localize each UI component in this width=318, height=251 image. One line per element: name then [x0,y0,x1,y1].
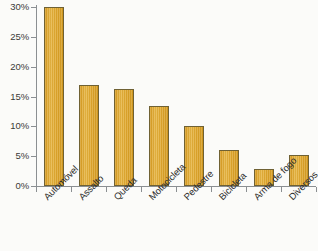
y-axis-line [36,5,37,187]
y-axis-tick-label: 0% [0,181,29,191]
y-axis-tick-label-text: 15% [0,92,29,102]
bar-chart: 0%5%10%15%20%25%30% AutomóvelAssaltoQued… [0,0,318,251]
y-axis-tick-label: 30% [0,2,29,12]
y-axis-tick-label-text: 30% [0,2,29,12]
y-axis-tick [31,156,36,157]
x-axis-tick [71,187,72,192]
bar [44,7,64,186]
x-axis-tick [36,187,37,192]
bar [79,85,99,186]
y-axis-tick-label: 25% [0,32,29,42]
y-axis-tick-label-text: 20% [0,62,29,72]
x-axis-tick [281,187,282,192]
y-axis-tick [31,7,36,8]
y-axis-tick-label: 10% [0,121,29,131]
y-axis-tick-label: 20% [0,62,29,72]
y-axis-tick [31,67,36,68]
x-axis-tick [211,187,212,192]
y-axis-tick-label-text: 10% [0,121,29,131]
y-axis-tick-label-text: 0% [0,181,29,191]
y-axis-tick-label: 5% [0,151,29,161]
plot-area: 0%5%10%15%20%25%30% AutomóvelAssaltoQued… [0,0,318,251]
x-axis-tick [316,187,317,192]
x-axis-tick [106,187,107,192]
bar [114,89,134,186]
y-axis-tick-label: 15% [0,92,29,102]
x-axis-tick [141,187,142,192]
y-axis-tick [31,37,36,38]
x-axis-tick [176,187,177,192]
y-axis-tick-label-text: 5% [0,151,29,161]
y-axis-tick [31,126,36,127]
y-axis-tick-label-text: 25% [0,32,29,42]
clipped-caption-strip [62,247,258,250]
x-axis-tick [246,187,247,192]
y-axis-tick [31,97,36,98]
